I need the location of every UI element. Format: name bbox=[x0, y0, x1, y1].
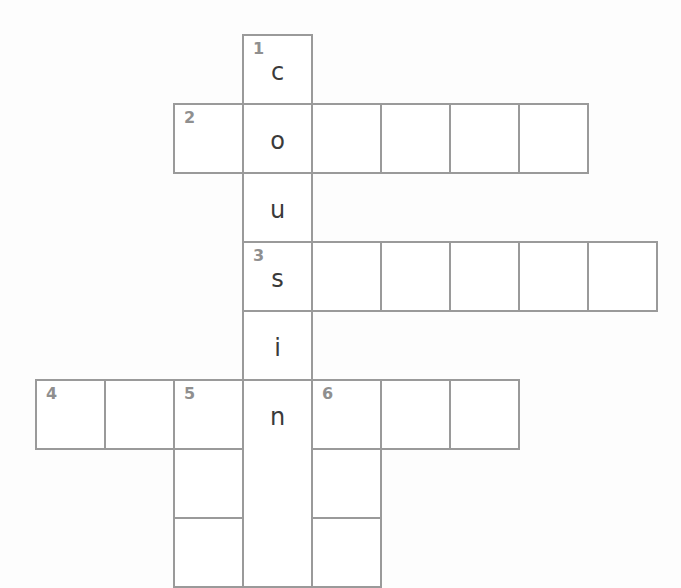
clue-number: 3 bbox=[253, 246, 264, 265]
cell-letter: s bbox=[244, 265, 311, 293]
crossword-cell[interactable]: 2 bbox=[173, 103, 244, 174]
crossword-cell[interactable] bbox=[587, 241, 658, 312]
clue-number: 2 bbox=[184, 108, 195, 127]
crossword-cell[interactable] bbox=[311, 448, 382, 519]
crossword-cell[interactable] bbox=[311, 103, 382, 174]
crossword-cell[interactable]: n bbox=[242, 379, 313, 450]
crossword-cell[interactable] bbox=[380, 379, 451, 450]
cell-letter: u bbox=[244, 196, 311, 224]
crossword-cell[interactable] bbox=[518, 103, 589, 174]
cell-letter: i bbox=[244, 334, 311, 362]
crossword-cell[interactable] bbox=[449, 103, 520, 174]
crossword-cell[interactable] bbox=[173, 517, 244, 588]
crossword-cell[interactable]: u bbox=[242, 172, 313, 243]
crossword-cell[interactable] bbox=[242, 517, 313, 588]
crossword-cell[interactable] bbox=[449, 379, 520, 450]
crossword-cell[interactable] bbox=[242, 448, 313, 519]
crossword-cell[interactable] bbox=[380, 241, 451, 312]
crossword-cell[interactable]: 1c bbox=[242, 34, 313, 105]
crossword-cell[interactable] bbox=[380, 103, 451, 174]
crossword-cell[interactable] bbox=[311, 517, 382, 588]
crossword-cell[interactable]: i bbox=[242, 310, 313, 381]
crossword-cell[interactable]: 4 bbox=[35, 379, 106, 450]
crossword-cell[interactable] bbox=[173, 448, 244, 519]
clue-number: 1 bbox=[253, 39, 264, 58]
crossword-cell[interactable] bbox=[104, 379, 175, 450]
cell-letter: o bbox=[244, 127, 311, 155]
clue-number: 5 bbox=[184, 384, 195, 403]
clue-number: 6 bbox=[322, 384, 333, 403]
cell-letter: n bbox=[244, 403, 311, 431]
crossword-cell[interactable]: o bbox=[242, 103, 313, 174]
crossword-cell[interactable]: 5 bbox=[173, 379, 244, 450]
crossword-cell[interactable]: 6 bbox=[311, 379, 382, 450]
crossword-cell[interactable] bbox=[449, 241, 520, 312]
crossword-cell[interactable]: 3s bbox=[242, 241, 313, 312]
cell-letter: c bbox=[244, 58, 311, 86]
clue-number: 4 bbox=[46, 384, 57, 403]
crossword-cell[interactable] bbox=[518, 241, 589, 312]
crossword-cell[interactable] bbox=[311, 241, 382, 312]
